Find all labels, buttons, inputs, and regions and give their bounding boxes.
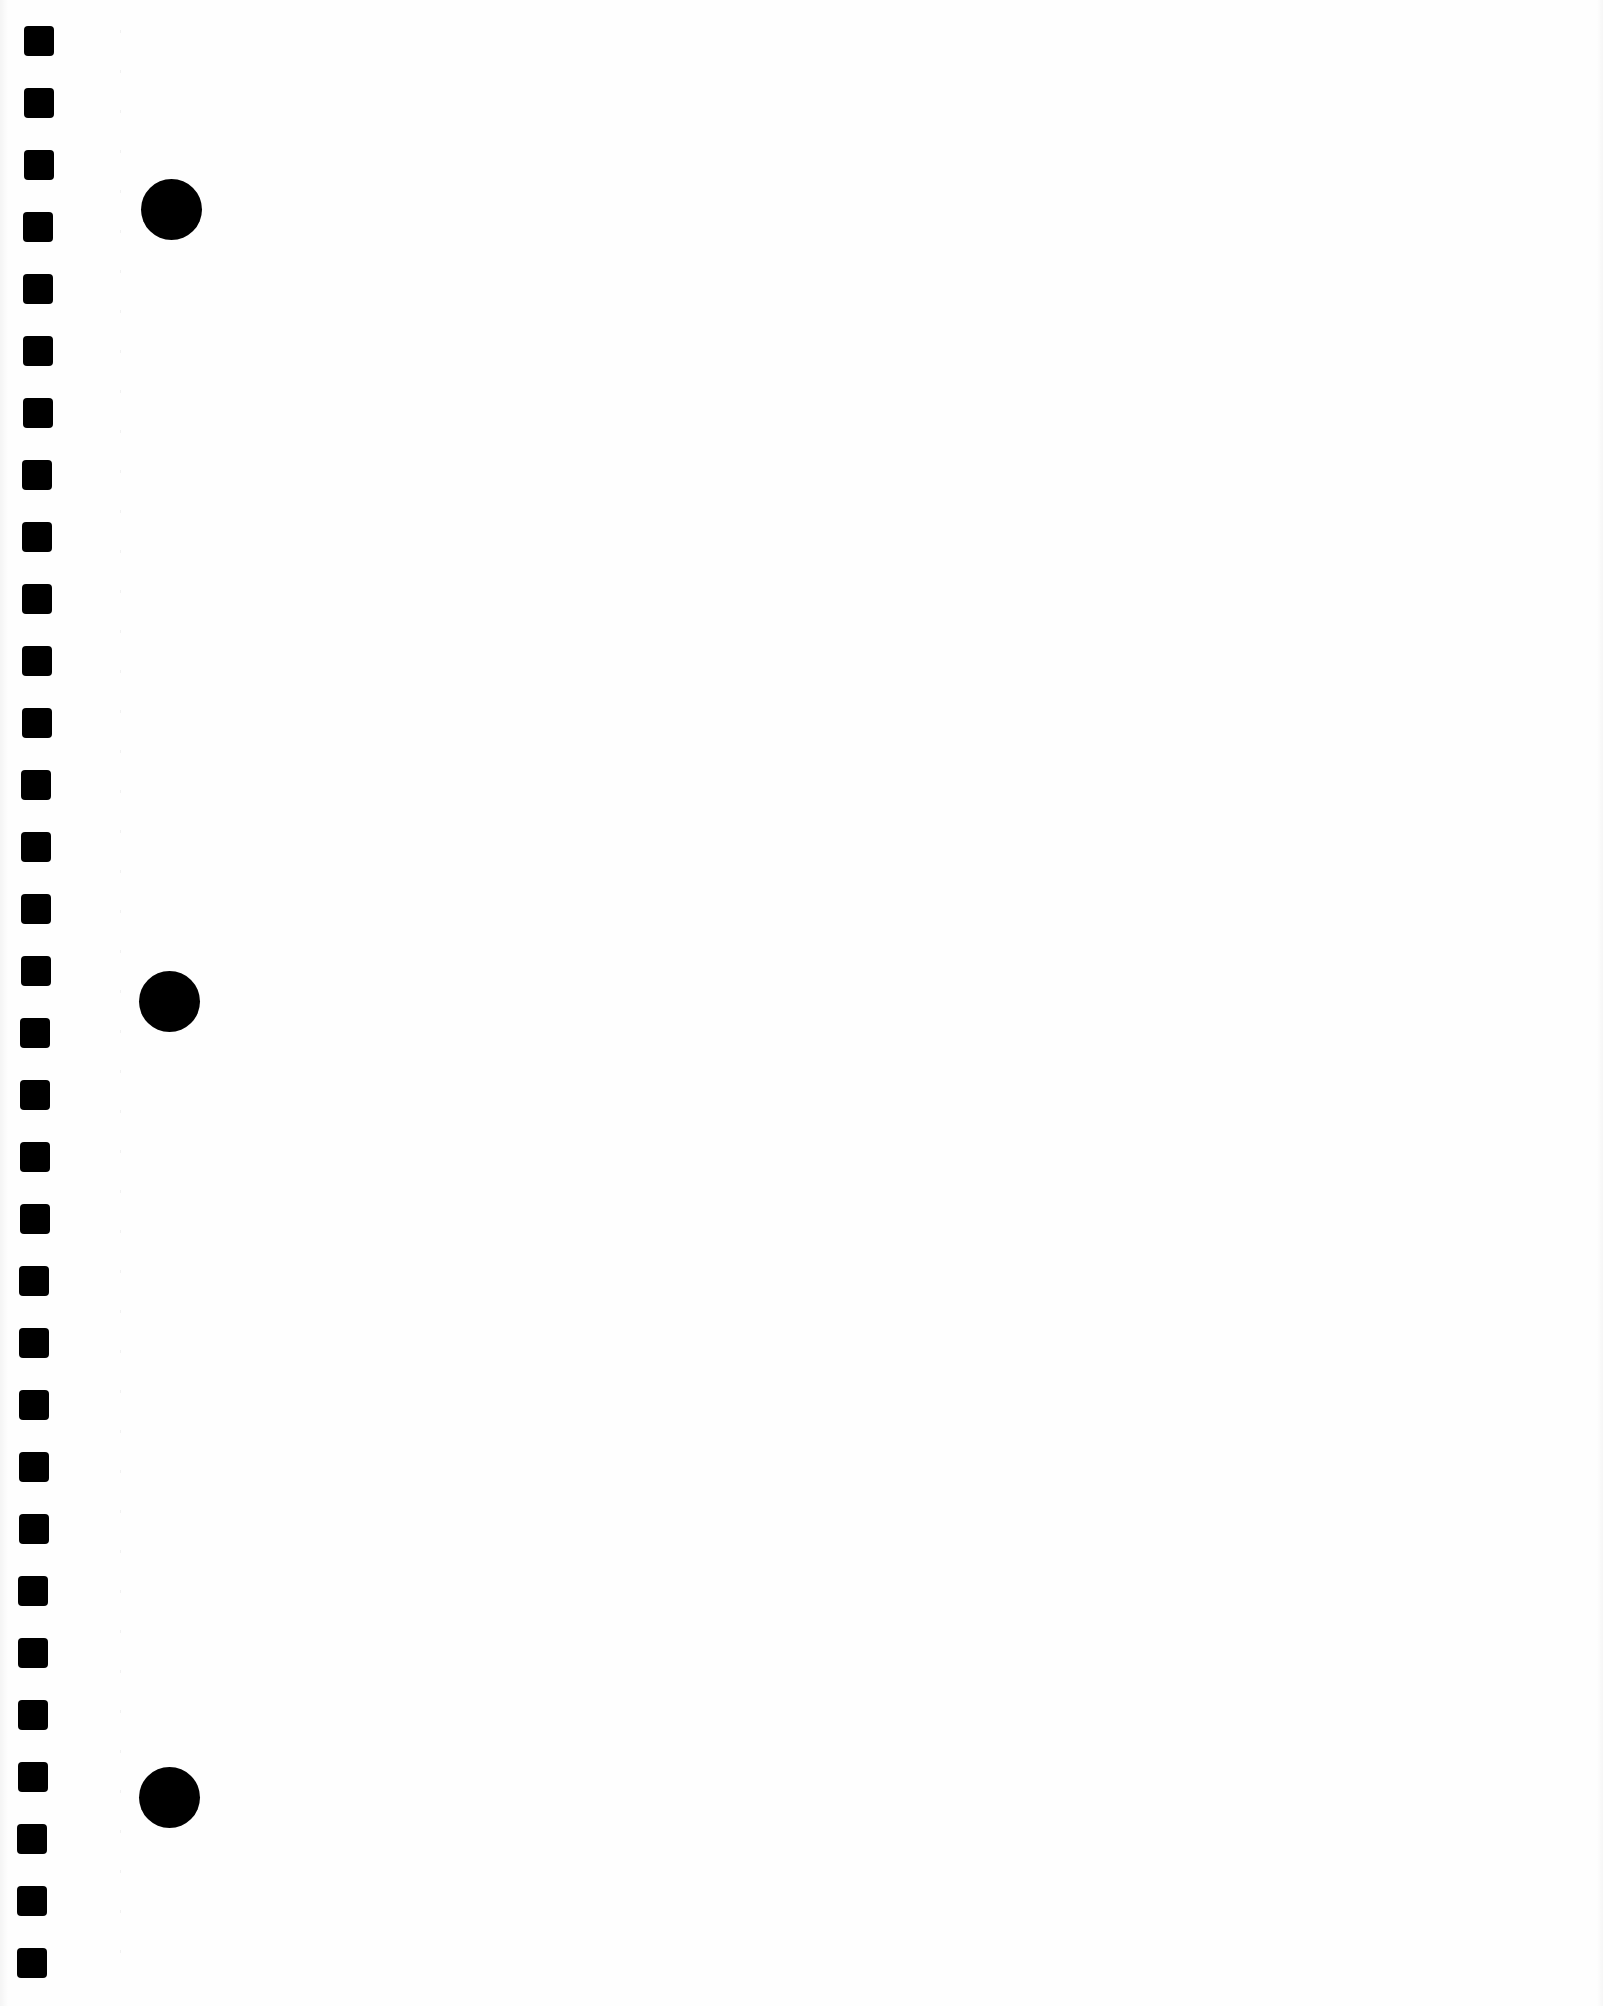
page-right-edge: [1597, 0, 1603, 2006]
perforation-square: [18, 1638, 48, 1668]
perforation-square: [19, 1328, 49, 1358]
perforation-square: [23, 398, 53, 428]
perforation-square: [24, 88, 54, 118]
perforation-square: [21, 832, 51, 862]
perforation-square: [18, 1762, 48, 1792]
perforation-square: [22, 584, 52, 614]
perforation-square: [19, 1452, 49, 1482]
perforation-square: [20, 1018, 50, 1048]
perforation-square: [17, 1886, 47, 1916]
perforation-square: [20, 1204, 50, 1234]
perforation-square: [24, 26, 54, 56]
perforation-square: [19, 1390, 49, 1420]
perforation-square: [20, 1142, 50, 1172]
perforation-square: [17, 1948, 47, 1978]
perforation-square: [17, 1824, 47, 1854]
perforation-square: [18, 1700, 48, 1730]
perforation-square: [21, 956, 51, 986]
perforation-square: [19, 1514, 49, 1544]
perforation-square: [23, 336, 53, 366]
perforation-square: [23, 212, 53, 242]
notebook-page: [0, 0, 1603, 2006]
perforation-square: [24, 150, 54, 180]
spiral-perforation-strip: [0, 0, 80, 2006]
perforation-square: [19, 1266, 49, 1296]
perforation-square: [22, 646, 52, 676]
perforation-square: [18, 1576, 48, 1606]
binder-hole: [139, 971, 200, 1032]
perforation-square: [21, 770, 51, 800]
perforation-square: [22, 460, 52, 490]
perforation-square: [22, 522, 52, 552]
binder-hole: [141, 179, 202, 240]
perforation-square: [23, 274, 53, 304]
perforation-square: [20, 1080, 50, 1110]
perforation-square: [22, 708, 52, 738]
faint-margin-marks: [120, 30, 121, 1990]
perforation-square: [21, 894, 51, 924]
binder-hole: [139, 1767, 200, 1828]
